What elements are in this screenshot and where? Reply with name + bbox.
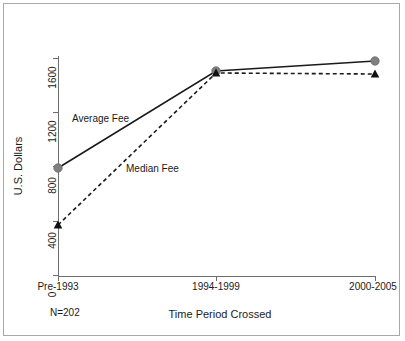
series-line-median-fee [58,73,375,225]
series-graphics [0,0,405,341]
marker-median-fee-2000-2005 [371,70,380,78]
chart-plot-area: 1600 1200 800 400 0 Pre-1993 1994-1999 2… [0,0,405,341]
series-label-average-fee: Average Fee [72,113,129,124]
series-label-median-fee: Median Fee [126,163,179,174]
marker-median-fee-pre-1993 [54,221,63,229]
marker-average-fee-pre-1993 [54,164,62,172]
marker-average-fee-2000-2005 [371,57,379,65]
